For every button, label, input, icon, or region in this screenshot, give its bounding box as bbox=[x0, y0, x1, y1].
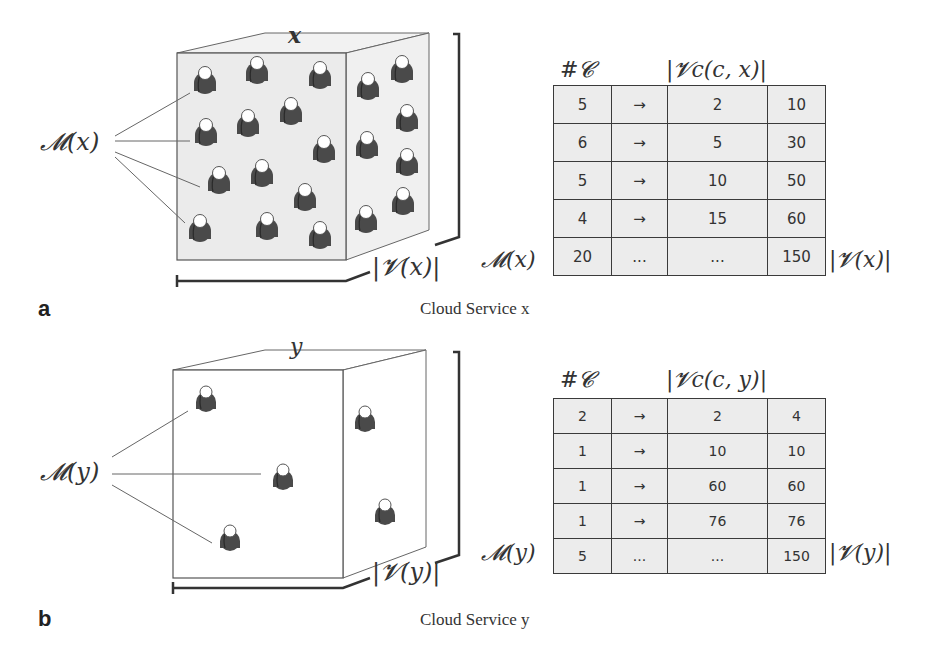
table-row: 1 → 60 60 bbox=[554, 469, 826, 504]
table-row-summary: 5 ... ... 150 bbox=[554, 539, 826, 574]
arrow-cell: → bbox=[612, 86, 668, 124]
arrow-cell: → bbox=[612, 124, 668, 162]
arrow-cell: → bbox=[612, 469, 668, 504]
count-cell: 5 bbox=[554, 162, 612, 200]
table-row: 5 → 2 10 bbox=[554, 86, 826, 124]
count-cell: 1 bbox=[554, 469, 612, 504]
total-cell: 60 bbox=[768, 469, 826, 504]
cube-label: y bbox=[290, 334, 302, 359]
count-cell: 5 bbox=[554, 86, 612, 124]
per-member-cell: ... bbox=[668, 539, 768, 574]
distribution-table-y: 2 → 2 4 1 → 10 10 1 → 60 60 1 → 76 76 bbox=[553, 398, 826, 574]
table-row: 4 → 15 60 bbox=[554, 200, 826, 238]
row-label-volume: |𝓥(x)| bbox=[829, 247, 891, 272]
arrow-cell: → bbox=[612, 504, 668, 539]
per-member-cell: 2 bbox=[668, 86, 768, 124]
arrow-cell: ... bbox=[612, 238, 668, 276]
per-member-cell: 15 bbox=[668, 200, 768, 238]
total-cell: 4 bbox=[768, 399, 826, 434]
table-row: 1 → 10 10 bbox=[554, 434, 826, 469]
panel-a-cloud-service-x: x 𝓜(x) |𝓥(x)| #𝓒 |𝓥c(c, x)| 5 → 2 10 6 →… bbox=[0, 0, 931, 330]
count-cell: 4 bbox=[554, 200, 612, 238]
per-member-cell: 76 bbox=[668, 504, 768, 539]
count-cell: 20 bbox=[554, 238, 612, 276]
panel-caption: Cloud Service x bbox=[420, 299, 530, 319]
table-row: 2 → 2 4 bbox=[554, 399, 826, 434]
table-row: 6 → 5 30 bbox=[554, 124, 826, 162]
total-cell: 30 bbox=[768, 124, 826, 162]
volume-label: |𝓥(y)| bbox=[372, 558, 440, 586]
table-row: 1 → 76 76 bbox=[554, 504, 826, 539]
count-cell: 1 bbox=[554, 434, 612, 469]
per-member-cell: 5 bbox=[668, 124, 768, 162]
total-cell: 60 bbox=[768, 200, 826, 238]
total-cell: 10 bbox=[768, 86, 826, 124]
table-row: 5 → 10 50 bbox=[554, 162, 826, 200]
per-member-cell: 2 bbox=[668, 399, 768, 434]
members-label: 𝓜(y) bbox=[40, 458, 99, 486]
arrow-cell: ... bbox=[612, 539, 668, 574]
count-cell: 6 bbox=[554, 124, 612, 162]
total-cell: 150 bbox=[768, 539, 826, 574]
table-header-count: #𝓒 bbox=[560, 367, 594, 392]
total-cell: 150 bbox=[768, 238, 826, 276]
distribution-table-x: 5 → 2 10 6 → 5 30 5 → 10 50 4 → 15 60 bbox=[553, 85, 826, 276]
volume-label: |𝓥(x)| bbox=[372, 253, 440, 281]
table-row-summary: 20 ... ... 150 bbox=[554, 238, 826, 276]
arrow-cell: → bbox=[612, 200, 668, 238]
arrow-cell: → bbox=[612, 162, 668, 200]
cube-right-face bbox=[343, 350, 426, 578]
total-cell: 76 bbox=[768, 504, 826, 539]
row-label-members: 𝓜(x) bbox=[481, 247, 536, 272]
count-cell: 2 bbox=[554, 399, 612, 434]
panel-letter: b bbox=[38, 606, 51, 632]
total-cell: 10 bbox=[768, 434, 826, 469]
per-member-cell: 60 bbox=[668, 469, 768, 504]
count-cell: 5 bbox=[554, 539, 612, 574]
panel-b-cloud-service-y: y 𝓜(y) |𝓥(y)| #𝓒 |𝓥c(c, y)| 2 → 2 4 1 → … bbox=[0, 330, 931, 663]
row-label-volume: |𝓥(y)| bbox=[829, 540, 891, 565]
table-header-volume: |𝓥c(c, y)| bbox=[666, 367, 767, 392]
per-member-cell: 10 bbox=[668, 162, 768, 200]
arrow-cell: → bbox=[612, 434, 668, 469]
panel-letter: a bbox=[38, 296, 50, 322]
per-member-cell: ... bbox=[668, 238, 768, 276]
count-cell: 1 bbox=[554, 504, 612, 539]
per-member-cell: 10 bbox=[668, 434, 768, 469]
total-cell: 50 bbox=[768, 162, 826, 200]
panel-caption: Cloud Service y bbox=[420, 610, 530, 630]
table-header-volume: |𝓥c(c, x)| bbox=[666, 57, 767, 82]
members-label: 𝓜(x) bbox=[40, 128, 99, 156]
row-label-members: 𝓜(y) bbox=[481, 540, 536, 565]
table-header-count: #𝓒 bbox=[560, 57, 594, 82]
cube-label: x bbox=[288, 22, 301, 48]
arrow-cell: → bbox=[612, 399, 668, 434]
